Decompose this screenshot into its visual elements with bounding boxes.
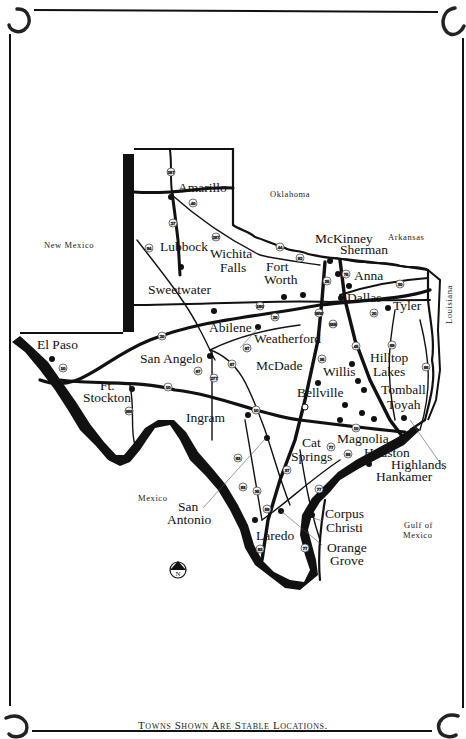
highway-shield-67a: 67 — [243, 344, 251, 352]
svg-text:Mexico: Mexico — [403, 530, 433, 540]
highway-shield-40: 40 — [189, 199, 197, 207]
svg-text:67: 67 — [245, 346, 250, 351]
svg-text:385: 385 — [126, 409, 134, 414]
svg-text:35: 35 — [325, 279, 330, 284]
city-laredo: Laredo — [256, 528, 294, 543]
highway-shield-277: 277 — [210, 374, 218, 382]
svg-text:82: 82 — [298, 256, 303, 261]
footer-caption: Towns Shown Are Stable Locations. — [0, 719, 466, 731]
city-wichita-falls: Wichita — [210, 246, 252, 261]
svg-text:83: 83 — [236, 456, 241, 461]
highway-shield-10b: 10 — [164, 383, 172, 391]
highway-shield-10a: 10 — [59, 364, 67, 372]
highway-shield-20a: 20 — [370, 309, 378, 317]
svg-text:87: 87 — [230, 362, 235, 367]
region-louisiana: Louisiana — [444, 285, 454, 324]
city-anna: Anna — [354, 268, 383, 283]
svg-text:20: 20 — [372, 311, 377, 316]
svg-text:30: 30 — [398, 282, 403, 287]
highway-shield-75: 75 — [342, 270, 350, 278]
svg-text:27: 27 — [171, 221, 176, 226]
svg-text:40: 40 — [191, 201, 196, 206]
city-sherman: Sherman — [340, 242, 388, 257]
compass-north-icon: N — [170, 561, 186, 578]
city-lubbock: Lubbock — [160, 239, 208, 254]
svg-text:10: 10 — [254, 408, 259, 413]
svg-text:45: 45 — [354, 344, 359, 349]
svg-text:59: 59 — [265, 507, 270, 512]
city-ingram: Ingram — [186, 410, 225, 425]
svg-text:35: 35 — [320, 357, 325, 362]
city-weatherford: Weatherford — [254, 331, 321, 346]
highway-shield-69: 69 — [388, 341, 396, 349]
highway-shield-83b: 83 — [239, 483, 247, 491]
highway-shield-20b: 20 — [271, 313, 279, 321]
svg-text:Stockton: Stockton — [83, 390, 131, 405]
city-abilene: Abilene — [209, 320, 252, 335]
city-el-paso: El Paso — [37, 337, 78, 352]
svg-text:20: 20 — [273, 315, 278, 320]
highway-shield-37: 37 — [283, 466, 291, 474]
svg-text:83: 83 — [241, 485, 246, 490]
highway-shield-35b: 35 — [318, 355, 326, 363]
city-magnolia: Magnolia — [337, 431, 389, 446]
city-tomball: Tomball — [381, 382, 426, 397]
svg-text:Grove: Grove — [330, 553, 364, 568]
highway-shield-30: 30 — [396, 280, 404, 288]
highway-shield-27: 27 — [169, 219, 177, 227]
svg-text:75: 75 — [344, 272, 349, 277]
region-oklahoma: Oklahoma — [270, 189, 310, 199]
highway-shield-180: 180 — [256, 302, 264, 310]
svg-text:77: 77 — [317, 487, 322, 492]
region-new-mexico: New Mexico — [44, 240, 94, 250]
svg-text:69: 69 — [390, 343, 395, 348]
city-sweetwater: Sweetwater — [148, 282, 211, 297]
highway-shield-287: 287 — [167, 168, 175, 176]
city-bellville: Bellville — [297, 385, 344, 400]
highway-shield-77c: 77 — [301, 544, 309, 552]
city-tyler: Tyler — [393, 298, 422, 313]
svg-text:35W: 35W — [315, 311, 324, 316]
highway-shield-83c: 83 — [256, 545, 264, 553]
city-dallas: Dallas — [347, 290, 382, 305]
highway-shield-45: 45 — [352, 342, 360, 350]
region-gulf-of-mexico: Gulf of — [404, 520, 433, 530]
highway-shield-59b: 59 — [263, 505, 271, 513]
city-willis: Willis — [323, 364, 355, 379]
svg-text:44: 44 — [278, 245, 283, 250]
svg-text:77: 77 — [303, 546, 308, 551]
horseshoe-icon — [9, 9, 29, 32]
svg-text:287: 287 — [168, 170, 176, 175]
svg-text:Springs: Springs — [291, 449, 332, 464]
svg-text:84: 84 — [147, 246, 152, 251]
highway-shield-67b: 67 — [194, 367, 202, 375]
svg-text:96: 96 — [424, 365, 429, 370]
texas-map: 287 40 27 84 287 44 82 75 35 30 20 180 2… — [0, 0, 466, 739]
svg-text:35E: 35E — [329, 322, 337, 327]
svg-text:37: 37 — [285, 468, 290, 473]
svg-text:10: 10 — [61, 366, 66, 371]
city-mcdade: McDade — [256, 358, 302, 373]
region-arkansas: Arkansas — [388, 232, 424, 242]
highway-shield-35: 35 — [323, 277, 331, 285]
city-cat-springs: Cat — [302, 435, 321, 450]
highway-shield-385: 385 — [125, 407, 133, 415]
highway-shield-96: 96 — [422, 363, 430, 371]
highway-shield-82: 82 — [296, 254, 304, 262]
svg-text:180: 180 — [257, 304, 265, 309]
highway-shield-35c: 35 — [253, 487, 261, 495]
horseshoe-icon — [443, 8, 464, 34]
highway-shield-287b: 287 — [212, 233, 220, 241]
svg-text:20: 20 — [160, 334, 165, 339]
svg-text:Falls: Falls — [220, 260, 246, 275]
svg-text:67: 67 — [196, 369, 201, 374]
highway-shield-59a: 59 — [344, 450, 352, 458]
svg-text:N: N — [175, 570, 180, 578]
svg-text:Worth: Worth — [264, 272, 298, 287]
highway-shield-44: 44 — [276, 243, 284, 251]
svg-text:Christi: Christi — [326, 520, 363, 535]
city-toyah: Toyah — [387, 397, 421, 412]
city-corpus-christi: Corpus — [325, 506, 364, 521]
region-mexico: Mexico — [138, 493, 168, 503]
svg-text:287: 287 — [213, 235, 221, 240]
